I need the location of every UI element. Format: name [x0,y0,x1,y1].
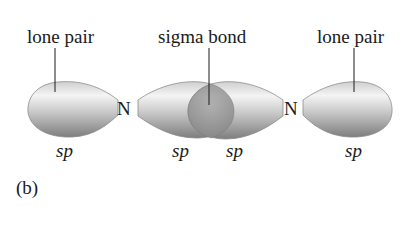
left-lone-pair-label: lone pair [27,27,94,46]
nitrogen-atom-left: N [117,99,131,118]
right-lone-pair-lobe [303,82,392,137]
orbital-label-sp-4: sp [345,141,362,160]
orbital-label-sp-2: sp [172,141,189,160]
panel-label: (b) [16,178,38,197]
right-lone-pair-label: lone pair [317,27,384,46]
nitrogen-atom-right: N [284,99,298,118]
sigma-bond-label: sigma bond [158,27,246,46]
orbital-label-sp-3: sp [226,141,243,160]
orbital-label-sp-1: sp [56,141,73,160]
left-lone-pair-lobe [28,82,118,137]
